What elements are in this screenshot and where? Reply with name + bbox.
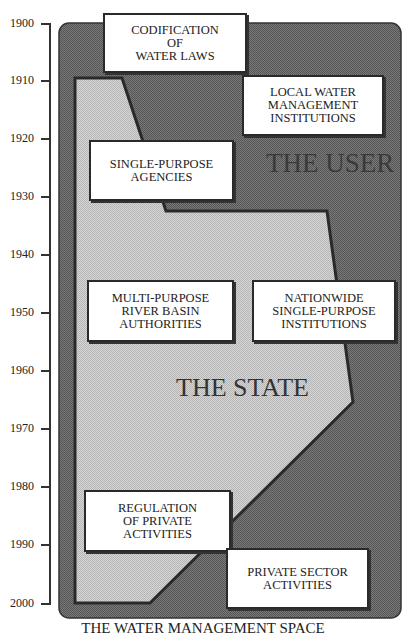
box-private-sector-activities: PRIVATE SECTOR ACTIVITIES [226, 548, 369, 609]
box-regulation-of-private: REGULATION OF PRIVATE ACTIVITIES [84, 490, 231, 552]
tick-1910: 1910 [0, 73, 34, 88]
box-codification-of-water-laws: CODIFICATION OF WATER LAWS [103, 13, 247, 73]
tick-1990: 1990 [0, 537, 34, 552]
box-nationwide-single-purpose: NATIONWIDE SINGLE-PURPOSE INSTITUTIONS [252, 280, 396, 342]
label-the-state: THE STATE [176, 373, 309, 403]
box-local-water-management: LOCAL WATER MANAGEMENT INSTITUTIONS [242, 75, 384, 136]
tick-1940: 1940 [0, 247, 34, 262]
tick-1980: 1980 [0, 479, 34, 494]
box-multi-purpose-river-basin: MULTI-PURPOSE RIVER BASIN AUTHORITIES [87, 280, 234, 342]
box-single-purpose-agencies: SINGLE-PURPOSE AGENCIES [89, 140, 234, 201]
tick-2000: 2000 [0, 596, 34, 611]
label-the-user: THE USER [266, 148, 394, 179]
diagram-caption: THE WATER MANAGEMENT SPACE [0, 620, 406, 637]
tick-1930: 1930 [0, 189, 34, 204]
tick-1920: 1920 [0, 131, 34, 146]
tick-1900: 1900 [0, 16, 34, 31]
tick-1950: 1950 [0, 305, 34, 320]
tick-1970: 1970 [0, 421, 34, 436]
tick-1960: 1960 [0, 363, 34, 378]
